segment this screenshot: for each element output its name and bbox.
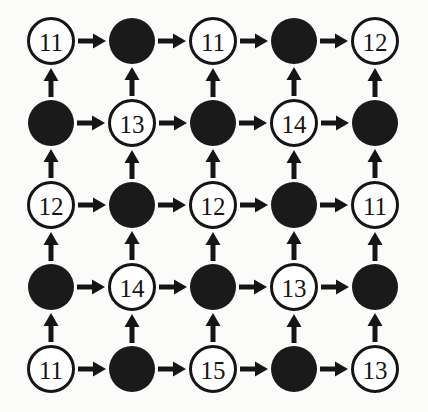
- edge-horizontal: [240, 198, 268, 213]
- graph-node-filled[interactable]: [271, 18, 317, 64]
- arrow-head-icon: [174, 116, 187, 131]
- edge-horizontal: [78, 198, 106, 213]
- arrow-head-icon: [93, 362, 106, 377]
- edge-vertical: [44, 68, 59, 97]
- arrow-head-icon: [255, 362, 268, 377]
- node-label: 11: [39, 358, 63, 383]
- arrow-head-icon: [336, 280, 349, 295]
- node-label: 13: [120, 112, 145, 137]
- edge-vertical: [125, 67, 140, 96]
- node-label: 15: [201, 358, 226, 383]
- edge-horizontal: [320, 362, 348, 377]
- arrow-head-icon: [254, 280, 267, 295]
- arrow-head-icon: [125, 67, 140, 80]
- edge-vertical: [287, 150, 302, 179]
- arrow-head-icon: [368, 68, 383, 81]
- graph-node-filled[interactable]: [109, 182, 155, 228]
- node-label: 11: [39, 30, 63, 55]
- node-label: 11: [201, 30, 225, 55]
- edge-horizontal: [320, 198, 348, 213]
- arrow-head-icon: [254, 116, 267, 131]
- graph-node-filled[interactable]: [28, 100, 74, 146]
- edge-horizontal: [240, 34, 268, 49]
- arrow-head-icon: [287, 231, 302, 244]
- edge-vertical: [125, 314, 140, 343]
- arrow-head-icon: [335, 34, 348, 49]
- node-label: 14: [282, 112, 307, 137]
- arrow-head-icon: [368, 149, 383, 162]
- edge-vertical: [368, 232, 383, 261]
- edge-horizontal: [158, 362, 186, 377]
- edge-horizontal: [239, 280, 267, 295]
- edge-vertical: [125, 231, 140, 260]
- graph-node-filled[interactable]: [352, 100, 398, 146]
- arrow-head-icon: [44, 232, 59, 245]
- graph-node-filled[interactable]: [109, 346, 155, 392]
- arrow-head-icon: [335, 198, 348, 213]
- edge-horizontal: [320, 34, 348, 49]
- graph-node-filled[interactable]: [28, 264, 74, 310]
- node-label: 13: [282, 276, 307, 301]
- graph-node-filled[interactable]: [190, 100, 236, 146]
- edge-horizontal: [78, 362, 106, 377]
- edge-horizontal: [321, 280, 349, 295]
- arrow-head-icon: [255, 198, 268, 213]
- arrow-head-icon: [173, 362, 186, 377]
- edge-vertical: [44, 313, 59, 342]
- arrow-head-icon: [173, 34, 186, 49]
- arrow-head-icon: [174, 280, 187, 295]
- edge-horizontal: [159, 116, 187, 131]
- edge-vertical: [44, 232, 59, 261]
- arrow-head-icon: [125, 231, 140, 244]
- node-label: 12: [363, 30, 388, 55]
- edge-vertical: [287, 67, 302, 96]
- node-label: 12: [201, 194, 226, 219]
- node-label: 14: [120, 276, 145, 301]
- arrow-head-icon: [44, 149, 59, 162]
- edge-horizontal: [78, 34, 106, 49]
- node-label: 12: [39, 194, 64, 219]
- graph-node-filled[interactable]: [352, 264, 398, 310]
- arrow-head-icon: [206, 313, 221, 326]
- edge-horizontal: [240, 362, 268, 377]
- edge-vertical: [44, 149, 59, 178]
- arrow-head-icon: [368, 232, 383, 245]
- arrow-head-icon: [92, 116, 105, 131]
- edge-vertical: [368, 68, 383, 97]
- edge-horizontal: [239, 116, 267, 131]
- arrow-head-icon: [336, 116, 349, 131]
- arrow-head-icon: [287, 314, 302, 327]
- graph-node-filled[interactable]: [271, 182, 317, 228]
- node-label: 11: [363, 194, 387, 219]
- arrow-head-icon: [93, 198, 106, 213]
- arrow-head-icon: [287, 67, 302, 80]
- graph-node-filled[interactable]: [271, 346, 317, 392]
- edge-vertical: [206, 232, 221, 261]
- edge-horizontal: [158, 198, 186, 213]
- edge-horizontal: [158, 34, 186, 49]
- node-label: 13: [363, 358, 388, 383]
- grid-graph-diagram: 11111213141212111413111513: [0, 0, 428, 412]
- edge-vertical: [206, 68, 221, 97]
- arrow-head-icon: [173, 198, 186, 213]
- edge-vertical: [368, 313, 383, 342]
- edge-horizontal: [77, 116, 105, 131]
- arrow-head-icon: [255, 34, 268, 49]
- arrow-head-icon: [125, 314, 140, 327]
- arrow-head-icon: [44, 68, 59, 81]
- edge-vertical: [206, 313, 221, 342]
- edge-horizontal: [321, 116, 349, 131]
- edge-vertical: [206, 149, 221, 178]
- arrow-head-icon: [93, 34, 106, 49]
- arrow-head-icon: [368, 313, 383, 326]
- arrow-head-icon: [206, 232, 221, 245]
- edge-vertical: [368, 149, 383, 178]
- edge-vertical: [287, 314, 302, 343]
- arrow-head-icon: [206, 68, 221, 81]
- arrow-head-icon: [92, 280, 105, 295]
- edge-vertical: [125, 150, 140, 179]
- graph-node-filled[interactable]: [190, 264, 236, 310]
- arrow-head-icon: [287, 150, 302, 163]
- graph-node-filled[interactable]: [109, 18, 155, 64]
- arrow-head-icon: [335, 362, 348, 377]
